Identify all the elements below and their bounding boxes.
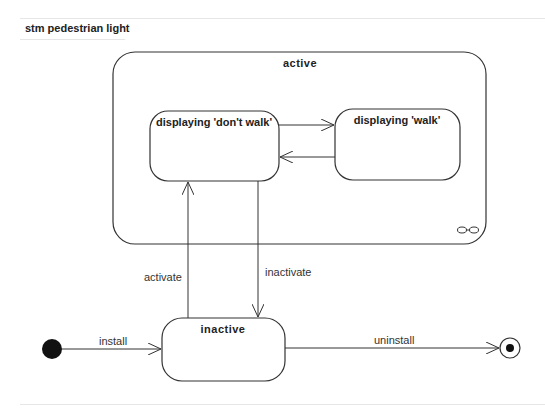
transition-inactivate-label: inactivate xyxy=(265,266,311,278)
state-walk-label: displaying 'walk' xyxy=(354,114,441,126)
transition-activate-label: activate xyxy=(144,271,182,283)
state-inactive[interactable]: inactive xyxy=(162,318,285,381)
state-diagram: active displaying 'don't walk' displayin… xyxy=(0,0,545,412)
final-node[interactable] xyxy=(500,338,520,358)
state-active-label: active xyxy=(283,57,317,69)
state-displaying-walk[interactable]: displaying 'walk' xyxy=(335,109,460,180)
transition-uninstall-label: uninstall xyxy=(374,334,414,346)
initial-node[interactable] xyxy=(42,339,62,359)
state-inactive-label: inactive xyxy=(201,323,246,335)
transition-install-label: install xyxy=(99,335,127,347)
state-displaying-dont-walk[interactable]: displaying 'don't walk' xyxy=(150,111,279,181)
state-dont-walk-label: displaying 'don't walk' xyxy=(156,116,272,128)
